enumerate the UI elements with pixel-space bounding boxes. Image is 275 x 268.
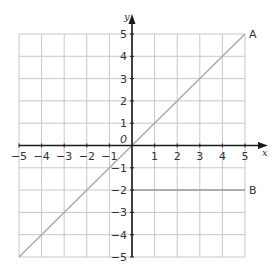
y-tick-label: 2 — [120, 95, 127, 108]
y-axis-label: y — [123, 11, 130, 22]
origin-label: 0 — [120, 133, 127, 146]
x-tick-label: −2 — [79, 150, 95, 163]
x-tick-label: −5 — [11, 150, 27, 163]
y-tick-label: 4 — [120, 50, 127, 63]
x-tick-label: 3 — [196, 150, 203, 163]
x-tick-label: −1 — [101, 150, 117, 163]
y-tick-label: 1 — [120, 117, 127, 130]
line-label-b: B — [249, 184, 257, 197]
y-tick-label: −5 — [111, 251, 127, 264]
line-label-a: A — [249, 28, 257, 41]
x-tick-label: 5 — [242, 150, 249, 163]
y-tick-label: −4 — [111, 229, 127, 242]
x-tick-label: 4 — [219, 150, 226, 163]
x-tick-label: −3 — [56, 150, 72, 163]
y-tick-label: 5 — [120, 28, 127, 41]
x-tick-label: 2 — [174, 150, 181, 163]
y-tick-label: 3 — [120, 73, 127, 86]
y-tick-label: −1 — [111, 162, 127, 175]
x-tick-label: 1 — [151, 150, 158, 163]
y-tick-label: −2 — [111, 184, 127, 197]
coordinate-grid: AB xy −5−4−3−2−11234554321−1−2−3−4−50 — [0, 0, 275, 268]
x-axis-label: x — [262, 147, 268, 158]
y-tick-label: −3 — [111, 206, 127, 219]
x-tick-label: −4 — [33, 150, 49, 163]
plotted-lines: AB — [19, 28, 257, 257]
